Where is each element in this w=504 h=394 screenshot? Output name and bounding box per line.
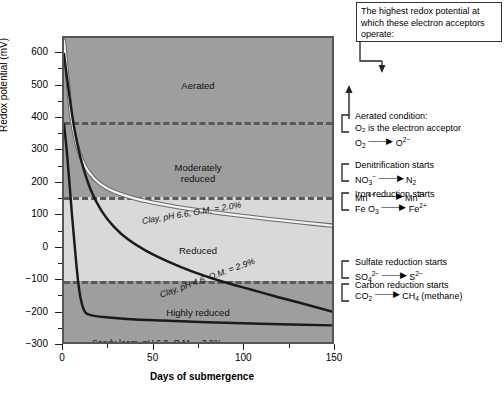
x-tick-100	[243, 344, 244, 350]
aerated-up-arrow-icon	[344, 85, 354, 119]
figure-caption-cropped	[0, 385, 250, 394]
x-axis-title: Days of submergence	[112, 371, 292, 382]
curve-halo	[64, 41, 332, 225]
bracket-carbon-reduction	[338, 283, 350, 303]
y-tick-0	[55, 247, 62, 248]
y-tick-label--100: −100	[14, 274, 48, 284]
x-tick-minor-75	[198, 344, 199, 348]
plot-area: AeratedModeratelyreducedReducedHighly re…	[62, 36, 334, 344]
x-tick-minor-125	[289, 344, 290, 348]
y-tick-label-200: 200	[14, 177, 48, 187]
x-tick-150	[334, 344, 335, 350]
curves-layer	[64, 38, 332, 342]
curve-clay-ph-6-6-o-m-2-0	[64, 41, 332, 225]
y-tick-label-0: 0	[14, 242, 48, 252]
y-tick-label-600: 600	[14, 47, 48, 57]
x-tick-label-50: 50	[133, 352, 173, 363]
x-tick-label-150: 150	[314, 352, 354, 363]
equation-aerated: O2 ——▶ O2−	[355, 134, 461, 152]
y-tick-300	[55, 149, 62, 150]
y-tick--300	[55, 344, 62, 345]
bracket-denitrification	[338, 163, 350, 183]
y-tick--200	[55, 312, 62, 313]
curve-clay-ph-4-6-o-m-2-9	[64, 54, 332, 312]
y-tick-label-500: 500	[14, 80, 48, 90]
equation-denitrification-1: NO3− ——▶ N2	[355, 171, 434, 189]
annotation-carbon-reduction: Carbon reduction startsCO2 ——▶ CH4 (meth…	[355, 280, 462, 305]
x-tick-label-0: 0	[42, 352, 82, 363]
y-axis-title: Redox potential (mV)	[0, 25, 9, 145]
y-tick-400	[55, 117, 62, 118]
annotation-aerated: Aerated condition:O₂ is the electron acc…	[355, 111, 461, 152]
annotation-title-aerated: Aerated condition:	[355, 111, 461, 123]
y-tick-500	[55, 85, 62, 86]
x-tick-label-100: 100	[223, 352, 263, 363]
y-tick-100	[55, 214, 62, 215]
y-tick-label--200: −200	[14, 307, 48, 317]
redox-potential-figure: Redox potential (mV) 6005004003002001000…	[0, 0, 504, 394]
curve-label-sandy-loam: Sandy loam, pH 6.0, O.M. = 3.9%	[92, 338, 222, 344]
y-tick-200	[55, 182, 62, 183]
y-tick-label-400: 400	[14, 112, 48, 122]
y-tick-label--300: −300	[14, 339, 48, 349]
callout-box: The highest redox potential at which the…	[356, 2, 502, 42]
annotation-title-iron-reduction: Iron reduction starts	[355, 189, 435, 201]
equation-carbon-reduction: CO2 ——▶ CH4 (methane)	[355, 291, 462, 305]
x-tick-minor-25	[107, 344, 108, 348]
bracket-iron-reduction	[338, 192, 350, 212]
curve-sandy-loam-ph-6-0-o-m-3-9	[64, 124, 332, 325]
annotation-subtitle-aerated: O₂ is the electron acceptor	[355, 123, 461, 135]
equation-iron-reduction: Fe O3 ——▶ Fe2+	[355, 200, 435, 218]
x-tick-0	[62, 344, 63, 350]
annotation-title-sulfate-reduction: Sulfate reduction starts	[355, 257, 447, 269]
y-tick-label-100: 100	[14, 209, 48, 219]
annotation-title-carbon-reduction: Carbon reduction starts	[355, 280, 462, 292]
y-tick-label-300: 300	[14, 144, 48, 154]
annotation-title-denitrification: Denitrification starts	[355, 160, 434, 172]
callout-arrow-icon	[356, 41, 416, 73]
annotation-iron-reduction: Iron reduction startsFe O3 ——▶ Fe2+	[355, 189, 435, 218]
y-tick-600	[55, 52, 62, 53]
x-tick-50	[153, 344, 154, 350]
bracket-sulfate-reduction	[338, 260, 350, 280]
y-tick--100	[55, 279, 62, 280]
